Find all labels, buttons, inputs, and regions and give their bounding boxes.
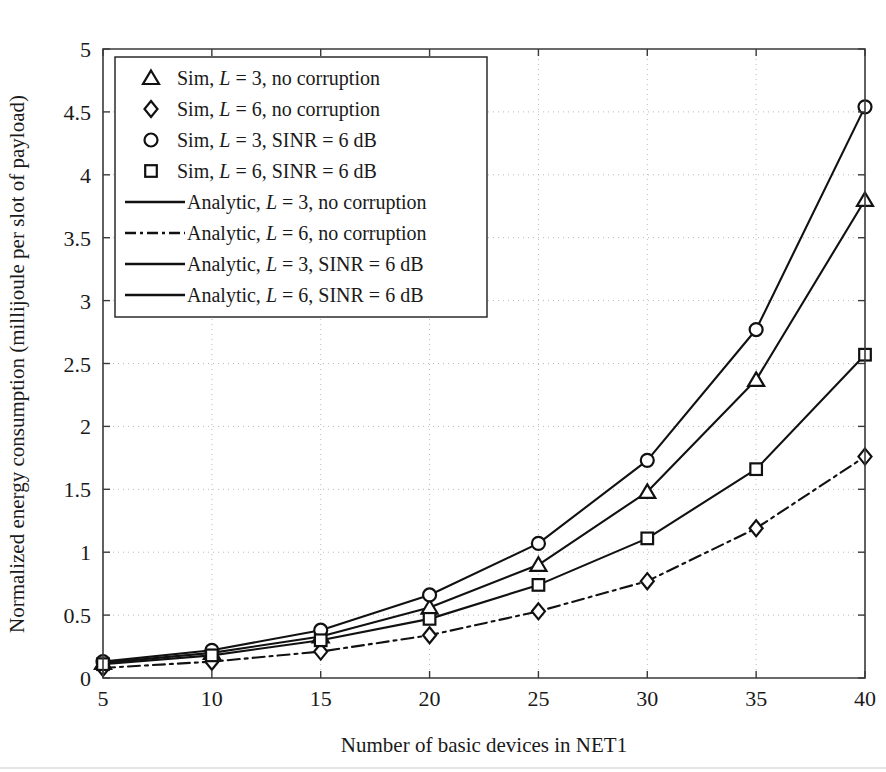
data-point-square (206, 650, 218, 662)
x-tick-label: 30 (636, 686, 658, 711)
data-point-square (315, 634, 327, 646)
data-point-diamond (532, 603, 545, 619)
series-line (103, 457, 865, 668)
data-point-square (533, 579, 545, 591)
energy-consumption-line-chart: 00.511.522.533.544.55510152025303540 Sim… (0, 0, 886, 772)
data-point-square (641, 533, 653, 545)
data-point-diamond (423, 627, 436, 643)
legend-entry-label[interactable]: Analytic, L = 3, SINR = 6 dB (187, 253, 423, 276)
y-tick-label: 4.5 (64, 100, 92, 125)
chart-legend: Sim, L = 3, no corruptionSim, L = 6, no … (115, 57, 487, 317)
y-axis-title: Normalized energy consumption (millijoul… (5, 95, 29, 633)
x-axis-title: Number of basic devices in NET1 (341, 733, 627, 757)
data-point-diamond (641, 573, 654, 589)
data-point-circle (532, 537, 545, 550)
legend-entry-label[interactable]: Analytic, L = 3, no corruption (187, 191, 427, 214)
legend-entry-label[interactable]: Sim, L = 6, no corruption (177, 98, 380, 121)
data-point-circle (750, 323, 763, 336)
x-tick-label: 35 (745, 686, 767, 711)
data-point-triangle (530, 557, 546, 571)
y-tick-label: 4 (80, 163, 91, 188)
legend-entry-label[interactable]: Analytic, L = 6, no corruption (187, 222, 427, 245)
data-point-circle (423, 588, 436, 601)
x-tick-label: 40 (854, 686, 876, 711)
y-tick-label: 0 (80, 666, 91, 691)
legend-circle-icon (145, 134, 158, 147)
y-tick-label: 1.5 (64, 477, 92, 502)
x-tick-label: 20 (419, 686, 441, 711)
data-point-square (750, 463, 762, 475)
x-tick-label: 25 (527, 686, 549, 711)
y-tick-label: 2 (80, 414, 91, 439)
data-point-circle (641, 454, 654, 467)
legend-entry-label[interactable]: Sim, L = 3, no corruption (177, 67, 380, 90)
data-point-square (424, 613, 436, 625)
legend-square-icon (145, 165, 157, 177)
y-tick-label: 0.5 (64, 603, 92, 628)
data-point-diamond (750, 520, 763, 536)
chart-figure: 00.511.522.533.544.55510152025303540 Sim… (0, 0, 886, 772)
y-tick-label: 2.5 (64, 352, 92, 377)
legend-box (115, 57, 487, 317)
x-tick-label: 15 (310, 686, 332, 711)
y-tick-label: 3 (80, 289, 91, 314)
series-line (103, 355, 865, 664)
y-tick-label: 3.5 (64, 226, 92, 251)
y-tick-label: 1 (80, 540, 91, 565)
x-tick-label: 5 (98, 686, 109, 711)
legend-entry-label[interactable]: Analytic, L = 6, SINR = 6 dB (187, 284, 423, 307)
legend-entry-label[interactable]: Sim, L = 3, SINR = 6 dB (177, 129, 377, 151)
data-point-triangle (748, 372, 764, 386)
x-tick-label: 10 (201, 686, 223, 711)
legend-entry-label[interactable]: Sim, L = 6, SINR = 6 dB (177, 160, 377, 182)
y-tick-label: 5 (80, 37, 91, 62)
